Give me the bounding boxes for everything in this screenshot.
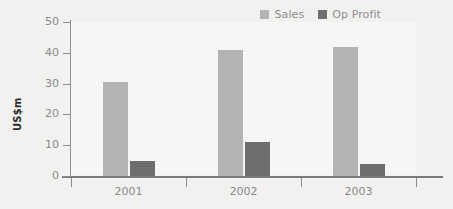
y-axis-label: 10 (45, 139, 59, 150)
legend-item-sales[interactable]: Sales (260, 9, 304, 20)
legend-swatch-op-profit (318, 10, 327, 19)
x-axis-tick (301, 178, 302, 187)
x-axis-label: 2003 (329, 186, 389, 197)
y-axis-tick (63, 84, 70, 85)
bar-sales-2003[interactable] (333, 47, 358, 176)
legend-label-sales: Sales (274, 9, 304, 20)
x-axis-label: 2001 (99, 186, 159, 197)
x-axis-line (62, 176, 443, 178)
bar-op-profit-2003[interactable] (360, 164, 385, 176)
x-axis-tick (186, 178, 187, 187)
bar-sales-2002[interactable] (218, 50, 243, 176)
y-axis-tick (63, 53, 70, 54)
y-axis-label: 30 (45, 78, 59, 89)
y-axis-label: 50 (45, 16, 59, 27)
y-axis-tick (63, 145, 70, 146)
legend-item-op-profit[interactable]: Op Profit (318, 9, 381, 20)
x-axis-tick (71, 178, 72, 187)
bar-chart: Sales Op Profit 01020304050 US$m 2001200… (0, 0, 453, 209)
y-axis-label: 20 (45, 108, 59, 119)
legend-swatch-sales (260, 10, 269, 19)
y-axis-label: 40 (45, 47, 59, 58)
x-axis-label: 2002 (214, 186, 274, 197)
legend-label-op-profit: Op Profit (332, 9, 381, 20)
bar-op-profit-2001[interactable] (130, 161, 155, 176)
y-axis-label: 0 (52, 170, 59, 181)
x-axis-tick (416, 178, 417, 187)
chart-legend: Sales Op Profit (260, 9, 381, 20)
bars-layer (71, 22, 416, 176)
y-axis-tick (63, 114, 70, 115)
bar-sales-2001[interactable] (103, 82, 128, 176)
y-axis-tick (63, 22, 70, 23)
bar-op-profit-2002[interactable] (245, 142, 270, 176)
y-axis-tick (63, 176, 70, 177)
y-axis-title: US$m (12, 97, 23, 131)
